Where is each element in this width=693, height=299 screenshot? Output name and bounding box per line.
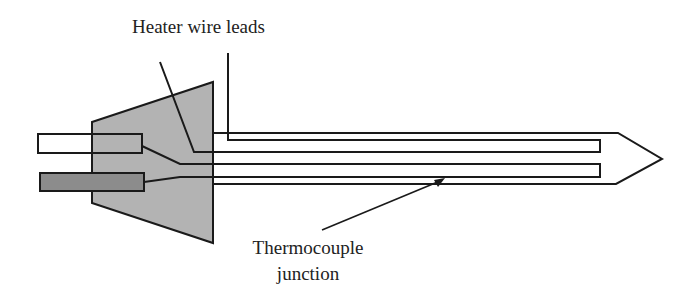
junction-arrowhead-icon: [434, 178, 445, 187]
thermocouple-label-line1: Thermocouple: [253, 237, 364, 258]
connector-light-inside: [92, 134, 142, 153]
junction-pointer-line: [322, 181, 440, 230]
connector-dark: [40, 173, 144, 191]
heater-leads-label: Heater wire leads: [132, 16, 265, 37]
heater-wire-loop: [160, 53, 600, 152]
probe-housing: [92, 82, 213, 243]
probe-diagram: Heater wire leads Thermocouple junction: [0, 0, 693, 299]
thermocouple-label-line2: junction: [276, 263, 340, 284]
